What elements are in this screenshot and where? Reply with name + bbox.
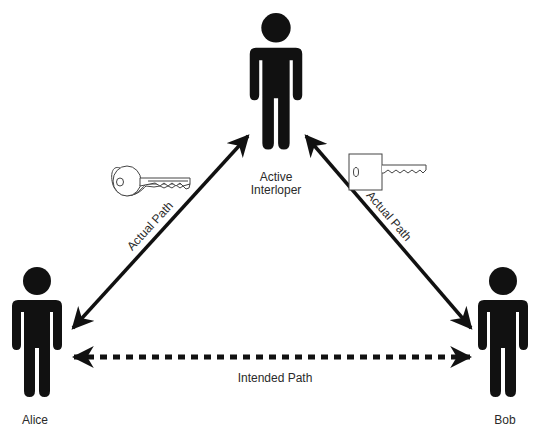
alice-label: Alice <box>10 413 60 427</box>
alice-person-icon <box>12 267 62 397</box>
right-key-icon <box>349 154 426 190</box>
intended-path-label: Intended Path <box>220 371 330 385</box>
left-key-icon <box>112 166 190 196</box>
interloper-label-line2: Interloper <box>236 184 316 197</box>
bob-label: Bob <box>480 413 530 427</box>
interloper-label: Active Interloper <box>236 171 316 197</box>
actual-path-left-arrow <box>73 136 248 328</box>
bob-person-icon <box>478 267 528 397</box>
interloper-person-icon <box>250 13 303 149</box>
